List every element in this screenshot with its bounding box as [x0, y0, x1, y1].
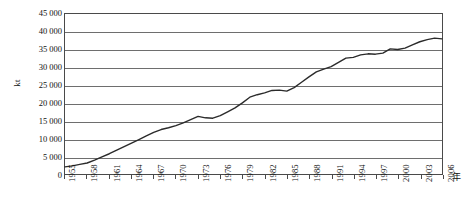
x-tick-label: 1994 [358, 164, 367, 182]
x-tick-label: 1955 [68, 164, 77, 182]
x-tick-label: 1967 [157, 164, 166, 182]
x-tick-label: 1997 [380, 164, 389, 182]
x-axis-title: 年 [452, 172, 461, 182]
x-tick-label: 1973 [202, 164, 211, 182]
x-tick-label: 1961 [113, 164, 122, 182]
x-tick-label: 2000 [402, 164, 411, 182]
x-tick-label: 1979 [246, 164, 255, 182]
x-axis-tick-labels: 1955195819611964196719701973197619791982… [0, 0, 474, 220]
x-tick-label: 1982 [269, 164, 278, 182]
x-tick-label: 1985 [291, 164, 300, 182]
x-tick-label: 1976 [224, 164, 233, 182]
x-tick-label: 1988 [313, 164, 322, 182]
x-tick-label: 1958 [90, 164, 99, 182]
x-tick-label: 1964 [135, 164, 144, 182]
line-chart: kt 45 00040 00035 00030 00025 00020 0001… [0, 0, 474, 220]
x-tick-label: 1991 [336, 164, 345, 182]
x-tick-label: 1970 [179, 164, 188, 182]
x-tick-label: 2003 [425, 164, 434, 182]
